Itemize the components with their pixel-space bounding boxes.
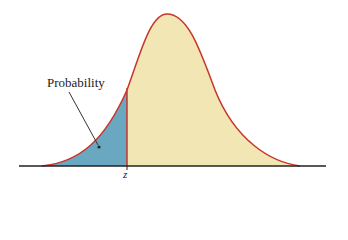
z-label: z (123, 168, 127, 180)
arrow-head (97, 145, 100, 148)
probability-arrow (69, 92, 98, 145)
probability-label: Probability (47, 75, 105, 91)
